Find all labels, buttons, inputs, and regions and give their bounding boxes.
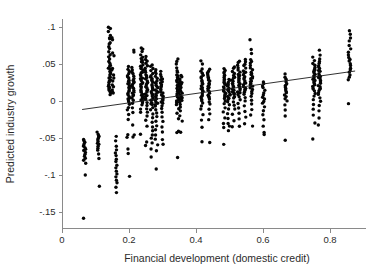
data-point <box>128 175 131 178</box>
data-point <box>236 102 239 105</box>
data-point <box>149 108 152 111</box>
data-point <box>238 98 241 101</box>
data-point <box>249 113 252 116</box>
data-point <box>155 115 158 118</box>
data-point <box>232 119 235 122</box>
data-point <box>140 103 143 106</box>
data-point <box>242 93 245 96</box>
data-point <box>228 124 231 127</box>
data-point <box>250 99 253 102</box>
x-tick-label: 0.8 <box>323 234 336 245</box>
data-point <box>125 136 128 139</box>
data-point <box>155 167 158 170</box>
data-point <box>154 108 157 111</box>
data-point <box>231 113 234 116</box>
data-point <box>154 128 157 131</box>
data-point <box>132 50 135 53</box>
data-point <box>317 123 320 126</box>
data-point <box>151 103 154 106</box>
data-point <box>160 125 163 128</box>
data-point <box>109 27 112 30</box>
data-point <box>232 104 235 107</box>
data-point <box>318 53 321 56</box>
data-point <box>200 140 203 143</box>
data-point <box>226 117 229 120</box>
data-point <box>283 103 286 106</box>
data-point <box>261 101 264 104</box>
data-point <box>208 141 211 144</box>
data-point <box>243 104 246 107</box>
data-point <box>222 122 225 125</box>
data-point <box>139 107 142 110</box>
data-point <box>145 114 148 117</box>
data-point <box>313 121 316 124</box>
data-point <box>145 124 148 127</box>
data-point <box>312 103 315 106</box>
data-point <box>284 139 287 142</box>
data-point <box>200 118 203 121</box>
data-point <box>250 52 253 55</box>
data-point <box>262 124 265 127</box>
x-tick-label: 0.2 <box>122 234 135 245</box>
data-point <box>237 106 240 109</box>
y-tick-label: -.05 <box>39 132 55 143</box>
data-point <box>154 104 157 107</box>
data-point <box>311 55 314 58</box>
data-point <box>250 102 253 105</box>
data-point <box>151 112 154 115</box>
data-point <box>178 114 181 117</box>
data-point <box>131 123 134 126</box>
data-point <box>208 102 211 105</box>
data-point <box>223 106 226 109</box>
data-point <box>176 156 179 159</box>
data-point <box>97 157 100 160</box>
data-point <box>226 100 229 103</box>
data-point <box>127 113 130 116</box>
data-point <box>108 93 111 96</box>
y-tick-label: 0 <box>50 95 55 106</box>
data-point <box>312 107 315 110</box>
data-point <box>251 124 254 127</box>
data-point <box>181 119 184 122</box>
data-point <box>312 113 315 116</box>
data-point <box>150 136 153 139</box>
y-tick-label: -.15 <box>39 206 55 217</box>
data-point <box>82 217 85 220</box>
data-point <box>155 124 158 127</box>
data-point <box>263 105 266 108</box>
y-tick-label: .1 <box>48 21 56 32</box>
data-point <box>201 113 204 116</box>
y-tick-label: .05 <box>42 58 55 69</box>
data-point <box>349 33 352 36</box>
data-point <box>161 130 164 133</box>
data-point <box>199 107 202 110</box>
data-point <box>114 166 117 169</box>
data-point <box>284 108 287 111</box>
data-point <box>319 100 322 103</box>
data-point <box>349 47 352 50</box>
data-point <box>98 185 101 188</box>
data-point <box>161 143 164 146</box>
data-point <box>112 73 115 76</box>
data-point <box>114 139 117 142</box>
y-tick-label: -.1 <box>44 169 55 180</box>
data-point <box>111 38 114 41</box>
data-point <box>95 130 98 133</box>
data-point <box>154 137 157 140</box>
data-point <box>248 38 251 41</box>
data-point <box>222 102 225 105</box>
data-point <box>108 47 111 50</box>
data-point <box>243 122 246 125</box>
data-point <box>161 120 164 123</box>
data-point <box>250 92 253 95</box>
data-point <box>249 95 252 98</box>
data-point <box>348 39 351 42</box>
data-point <box>243 96 246 99</box>
data-point <box>175 103 178 106</box>
data-point <box>114 175 117 178</box>
data-point <box>347 78 350 81</box>
plot-canvas: .1.050-.05-.1-.1500.20.40.60.8 Financial… <box>0 0 374 270</box>
y-axis-title: Predicted industry growth <box>4 65 16 184</box>
data-point <box>200 104 203 107</box>
data-point <box>146 110 149 113</box>
